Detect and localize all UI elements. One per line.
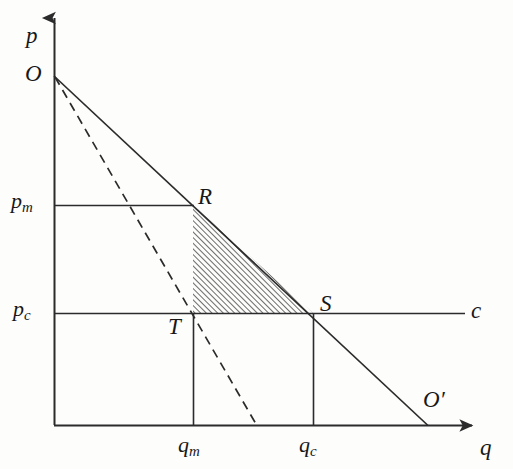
point-label-s: S — [320, 292, 332, 315]
monopoly-price-tick-label: pm — [11, 190, 33, 215]
competitive-price-tick-label: pc — [13, 298, 31, 323]
origin-label: O — [25, 62, 42, 85]
quantity-axis-label: q — [480, 436, 492, 459]
origin-prime-mark: ′ — [440, 387, 445, 412]
monopoly-quantity-base: q — [178, 432, 189, 457]
origin-prime-base: O — [423, 387, 440, 412]
monopoly-quantity-subscript: m — [189, 443, 200, 459]
competitive-quantity-subscript: c — [310, 443, 317, 459]
competitive-price-subscript: c — [24, 307, 31, 323]
demand-curve — [54, 76, 428, 426]
point-label-t: T — [168, 315, 181, 338]
point-label-r: R — [198, 185, 212, 208]
competitive-quantity-tick-label: qc — [299, 434, 317, 459]
price-axis-label: p — [26, 24, 38, 47]
monopoly-price-base: p — [11, 188, 22, 213]
deadweight-loss-triangle — [193, 205, 313, 313]
competitive-quantity-base: q — [299, 432, 310, 457]
competitive-price-base: p — [13, 296, 24, 321]
origin-prime-label: O′ — [423, 388, 445, 411]
cost-line-label: c — [471, 299, 481, 322]
monopoly-price-subscript: m — [22, 199, 33, 215]
monopoly-quantity-tick-label: qm — [178, 434, 200, 459]
economics-diagram: p q O O′ c pm pc qm qc R S T — [0, 0, 513, 469]
